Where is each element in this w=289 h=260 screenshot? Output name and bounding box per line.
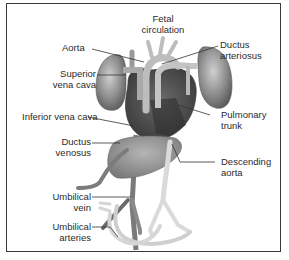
label-line: Superior (40, 69, 96, 80)
label-line: Umbilical (40, 192, 91, 203)
label-line: aorta (221, 168, 271, 179)
left-lung (96, 55, 126, 111)
label-line: vena cava (40, 80, 96, 91)
title-line-1: Fetal (138, 14, 188, 25)
label-line: Descending (221, 157, 271, 168)
title-line-2: circulation (138, 25, 188, 36)
label-line: trunk (221, 121, 266, 132)
label-inferior-vena-cava: Inferior vena cava (22, 112, 98, 123)
label-umbilical-arteries: Umbilical arteries (40, 222, 91, 243)
diagram-title: Fetal circulation (138, 14, 188, 35)
label-line: arteries (40, 233, 91, 244)
label-line: venosus (40, 148, 91, 159)
label-line: Ductus (220, 40, 262, 51)
label-umbilical-vein: Umbilical vein (40, 192, 91, 213)
label-pulmonary-trunk: Pulmonary trunk (221, 110, 266, 131)
label-descending-aorta: Descending aorta (221, 157, 271, 178)
label-line: arteriosus (220, 51, 262, 62)
label-aorta: Aorta (62, 43, 85, 54)
label-superior-vena-cava: Superior vena cava (40, 69, 96, 90)
label-ductus-venosus: Ductus venosus (40, 137, 91, 158)
label-ductus-arteriosus: Ductus arteriosus (220, 40, 262, 61)
label-line: Pulmonary (221, 110, 266, 121)
label-line: vein (40, 203, 91, 214)
label-line: Ductus (40, 137, 91, 148)
label-line: Umbilical (40, 222, 91, 233)
